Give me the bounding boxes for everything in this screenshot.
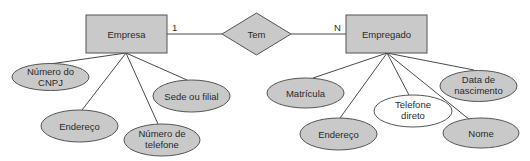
entity-empresa[interactable]: Empresa bbox=[86, 15, 167, 53]
attribute-label: Endereço bbox=[318, 129, 359, 140]
cardinality-one: 1 bbox=[172, 22, 177, 33]
attribute-label-line2: CNPJ bbox=[38, 77, 63, 88]
attribute-label: Matrícula bbox=[286, 88, 326, 99]
line-empresa-endereco bbox=[82, 53, 126, 110]
cardinality-many: N bbox=[334, 22, 341, 33]
attribute-sede-ou-filial[interactable]: Sede ou filial bbox=[153, 80, 230, 112]
attribute-label-line1: Telefone bbox=[395, 99, 431, 110]
attribute-label: Nome bbox=[468, 128, 493, 139]
attribute-matricula[interactable]: Matrícula bbox=[267, 78, 344, 108]
attribute-label-line2: nascimento bbox=[454, 85, 503, 96]
attribute-label-line1: Número do bbox=[27, 66, 74, 77]
attribute-data-nascimento[interactable]: Data de nascimento bbox=[440, 71, 517, 102]
attribute-label-line2: telefone bbox=[145, 139, 179, 150]
attribute-label: Endereço bbox=[59, 121, 100, 132]
attribute-label-line1: Número de bbox=[139, 128, 186, 139]
er-diagram: 1 N Empresa Tem Empregado Número do CNPJ… bbox=[0, 0, 530, 161]
entity-empregado[interactable]: Empregado bbox=[346, 15, 427, 53]
attribute-empresa-endereco[interactable]: Endereço bbox=[41, 110, 118, 142]
attribute-label-line2: direto bbox=[401, 110, 425, 121]
attribute-nome[interactable]: Nome bbox=[443, 118, 519, 148]
attribute-empregado-endereco[interactable]: Endereço bbox=[300, 118, 377, 150]
relationship-tem-label: Tem bbox=[248, 29, 266, 40]
attribute-telefone-direto[interactable]: Telefone direto bbox=[374, 95, 452, 127]
line-empregado-matricula bbox=[313, 53, 387, 78]
line-empresa-telefone bbox=[126, 53, 158, 124]
attribute-numero-telefone[interactable]: Número de telefone bbox=[124, 124, 200, 156]
line-empresa-cnpj bbox=[50, 53, 126, 64]
attribute-label: Sede ou filial bbox=[164, 91, 218, 102]
line-empregado-telefone bbox=[387, 53, 409, 95]
attribute-numero-cnpj[interactable]: Número do CNPJ bbox=[12, 64, 89, 91]
entity-empregado-label: Empregado bbox=[362, 29, 411, 40]
entity-empresa-label: Empresa bbox=[107, 29, 146, 40]
line-empregado-nascimento bbox=[387, 53, 474, 70]
line-empresa-sede bbox=[126, 53, 187, 80]
relationship-tem[interactable]: Tem bbox=[222, 13, 291, 55]
attribute-label-line1: Data de bbox=[462, 74, 495, 85]
